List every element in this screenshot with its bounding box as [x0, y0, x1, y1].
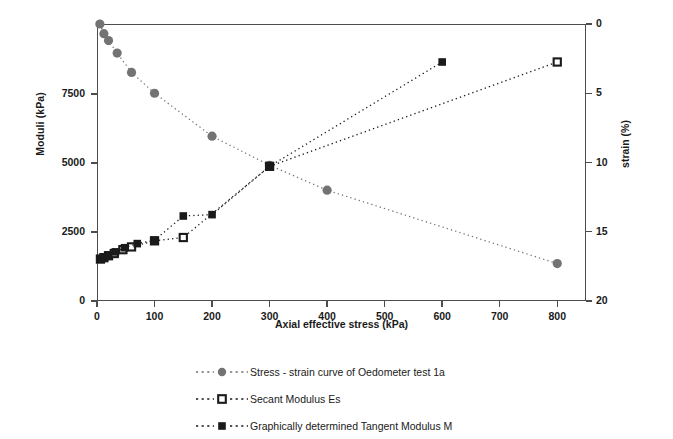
y-axis-right-tick-label: 20	[596, 294, 636, 306]
tick-x	[211, 301, 212, 307]
y-axis-left-tick-label: 0	[29, 294, 85, 306]
legend-marker-square-filled-icon	[196, 419, 248, 433]
y-axis-left-tick-label: 2500	[29, 225, 85, 237]
chart-figure: Moduli (kPa) strain (%) Axial effective …	[0, 0, 673, 439]
x-axis-tick-label: 300	[247, 310, 293, 322]
legend-item-secant-modulus: Secant Modulus Es	[196, 385, 626, 412]
legend-label-stress-strain: Stress - strain curve of Oedometer test …	[248, 366, 445, 378]
tick-y-left	[91, 93, 97, 94]
tick-y-right	[586, 93, 592, 94]
tick-y-left	[91, 162, 97, 163]
tick-x	[441, 301, 442, 307]
legend-item-stress-strain: Stress - strain curve of Oedometer test …	[196, 358, 626, 385]
tick-y-right	[586, 162, 592, 163]
tick-x	[269, 301, 270, 307]
y-axis-right-tick-label: 10	[596, 156, 636, 168]
tick-y-right	[586, 300, 592, 301]
x-axis-tick-label: 600	[419, 310, 465, 322]
x-axis-tick-label: 100	[132, 310, 178, 322]
x-axis-tick-label: 800	[534, 310, 580, 322]
tick-x	[557, 301, 558, 307]
y-axis-left-tick-label: 5000	[29, 156, 85, 168]
y-axis-right-title: strain (%)	[619, 89, 631, 199]
legend-item-tangent-modulus: Graphically determined Tangent Modulus M	[196, 412, 626, 439]
y-axis-left-tick-label: 7500	[29, 87, 85, 99]
x-axis-tick-label: 700	[477, 310, 523, 322]
tick-y-right	[586, 231, 592, 232]
x-axis-tick-label: 200	[189, 310, 235, 322]
x-axis-tick-label: 0	[74, 310, 120, 322]
tick-x	[154, 301, 155, 307]
plot-area	[97, 24, 586, 301]
tick-y-left	[91, 231, 97, 232]
tick-y-right	[586, 23, 592, 24]
legend-label-tangent-modulus: Graphically determined Tangent Modulus M	[248, 420, 452, 432]
y-axis-right-tick-label: 15	[596, 225, 636, 237]
x-axis-tick-label: 400	[304, 310, 350, 322]
tick-x	[326, 301, 327, 307]
x-axis-tick-label: 500	[362, 310, 408, 322]
y-axis-right-tick-label: 5	[596, 86, 636, 98]
legend-label-secant-modulus: Secant Modulus Es	[248, 393, 340, 405]
legend-marker-circle-filled-icon	[196, 365, 248, 379]
y-axis-right-tick-label: 0	[596, 17, 636, 29]
tick-x	[499, 301, 500, 307]
tick-x	[384, 301, 385, 307]
chart-legend: Stress - strain curve of Oedometer test …	[196, 358, 626, 439]
legend-marker-square-open-icon	[196, 392, 248, 406]
tick-x	[96, 301, 97, 307]
